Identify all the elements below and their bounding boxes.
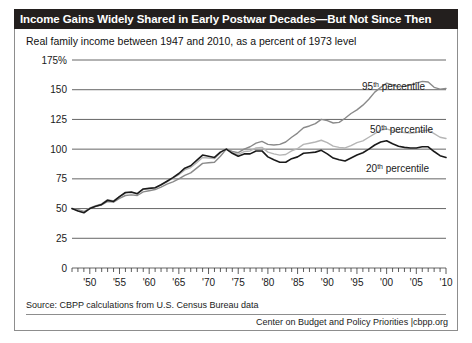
series-line-20th-percentile	[72, 141, 446, 213]
x-axis-tick-label: '65	[172, 277, 185, 288]
x-axis-tickmarks	[72, 268, 446, 274]
x-axis-tick-label: '85	[291, 277, 304, 288]
y-axis-tick-label: 100	[50, 144, 67, 155]
series-label-95th-percentile: 95th percentile	[362, 81, 426, 92]
y-axis-tick-label: 25	[56, 233, 68, 244]
x-axis-tick-label: '75	[232, 277, 245, 288]
chart-svg: 175%1501251007550250 '50'55'60'65'70'75'…	[14, 9, 458, 331]
y-axis-labels: 175%1501251007550250	[41, 55, 67, 274]
source-note: Source: CBPP calculations from U.S. Cens…	[26, 300, 258, 310]
x-axis-tick-label: '05	[410, 277, 423, 288]
series-label-20th-percentile: 20th percentile	[366, 163, 430, 174]
credit-line: Center on Budget and Policy Priorities |…	[256, 317, 448, 327]
x-axis-tick-label: '60	[143, 277, 156, 288]
y-axis-tick-label: 50	[56, 203, 68, 214]
y-axis-tick-label: 150	[50, 84, 67, 95]
x-axis-tick-label: '00	[380, 277, 393, 288]
plot-area: 175%1501251007550250 '50'55'60'65'70'75'…	[14, 9, 458, 331]
x-axis-tick-label: '95	[350, 277, 363, 288]
x-axis-labels: '50'55'60'65'70'75'80'85'90'95'00'05'10	[83, 277, 453, 288]
x-axis-tick-label: '55	[113, 277, 126, 288]
series-lines-group	[72, 81, 446, 212]
x-axis-tick-label: '50	[83, 277, 96, 288]
footer-divider	[26, 314, 446, 315]
y-axis-tick-label: 175%	[41, 55, 67, 66]
chart-figure: Income Gains Widely Shared in Early Post…	[14, 9, 458, 331]
x-axis-tick-label: '80	[261, 277, 274, 288]
y-axis-tick-label: 125	[50, 114, 67, 125]
x-axis-tick-label: '70	[202, 277, 215, 288]
x-axis-tick-label: '90	[321, 277, 334, 288]
series-label-50th-percentile: 50th percentile	[370, 124, 434, 135]
y-axis-tick-label: 75	[56, 173, 68, 184]
y-axis-tick-label: 0	[61, 263, 67, 274]
x-axis-tick-label: '10	[439, 277, 452, 288]
